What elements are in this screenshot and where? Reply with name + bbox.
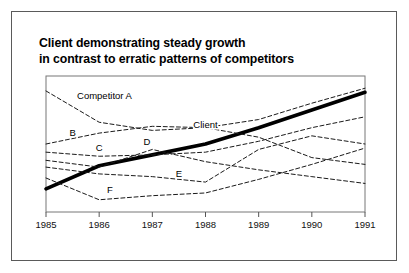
series-label-f: F [107,184,113,195]
series-label-d: D [144,136,151,147]
x-axis-label-1985: 1985 [35,219,56,230]
plot-area: ClientClientCompetitor ACompetitor ABBCC… [0,0,409,273]
series-label-b: B [69,127,75,138]
x-axis-label-1986: 1986 [89,219,110,230]
x-axis-label-1991: 1991 [354,219,375,230]
x-axis-ticks [46,212,365,217]
x-axis-label-1990: 1990 [301,219,322,230]
series-label-c: C [96,142,103,153]
x-axis-labels: 1985198619871988198919901991 [35,219,375,230]
series-label-competitor-a: Competitor A [77,90,133,101]
x-axis-label-1988: 1988 [195,219,216,230]
x-axis-label-1989: 1989 [248,219,269,230]
plot-svg: ClientClientCompetitor ACompetitor ABBCC… [0,0,409,273]
series-label-e: E [176,168,182,179]
x-axis-label-1987: 1987 [142,219,163,230]
series-label-client: Client [193,119,218,130]
chart-figure: Client demonstrating steady growth in co… [0,0,409,273]
